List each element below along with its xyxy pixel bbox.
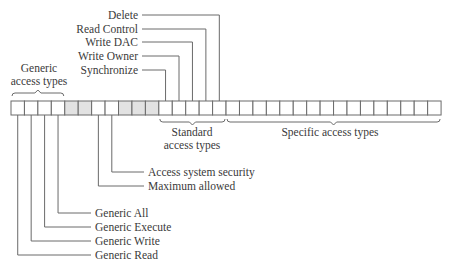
bit-cell (65, 101, 78, 115)
bit-cell (266, 101, 279, 115)
generic-bracket (12, 90, 64, 96)
bit-cell (307, 101, 320, 115)
connector-maximum-allowed (98, 115, 144, 186)
bit-cell (11, 101, 24, 115)
bit-cell (280, 101, 293, 115)
label-maximum-allowed: Maximum allowed (148, 180, 235, 192)
label-generic-read: Generic Read (95, 249, 158, 261)
bit-cell (239, 101, 252, 115)
label-synchronize: Synchronize (81, 64, 138, 77)
standard-bracket (160, 119, 225, 125)
bit-cell (428, 101, 441, 115)
connector-generic-all (58, 115, 91, 213)
label-access-system-security: Access system security (148, 166, 255, 179)
bit-cell (78, 101, 91, 115)
bit-cell (186, 101, 199, 115)
label-write-owner: Write Owner (78, 50, 138, 62)
connector-delete (142, 15, 219, 101)
specific-group-label: Specific access types (281, 126, 379, 139)
standard-group-label-2: access types (164, 139, 221, 152)
generic-group-label-1: Generic (21, 62, 57, 74)
access-mask-diagram: Generic access types Standard access typ… (0, 0, 452, 271)
bit-cell (253, 101, 266, 115)
standard-group-label-1: Standard (172, 126, 213, 138)
label-generic-write: Generic Write (95, 235, 160, 247)
bit-cell (199, 101, 212, 115)
bit-cells (11, 101, 441, 115)
label-generic-execute: Generic Execute (95, 221, 171, 233)
bit-cell (159, 101, 172, 115)
connector-read-control (142, 29, 206, 101)
bit-cell (401, 101, 414, 115)
label-write-dac: Write DAC (85, 36, 138, 48)
connector-generic-read (18, 115, 91, 255)
bit-cell (38, 101, 51, 115)
bit-cell (119, 101, 132, 115)
generic-group-label-2: access types (11, 75, 68, 88)
label-generic-all: Generic All (95, 207, 148, 219)
bit-cell (105, 101, 118, 115)
bit-cell (320, 101, 333, 115)
bit-cell (172, 101, 185, 115)
connector-generic-execute (45, 115, 91, 227)
bit-cell (293, 101, 306, 115)
bit-cell (387, 101, 400, 115)
top-connectors (142, 15, 219, 101)
bit-cell (414, 101, 427, 115)
connector-generic-write (31, 115, 91, 241)
connector-write-dac (142, 42, 192, 101)
bit-cell (226, 101, 239, 115)
bit-cell (213, 101, 226, 115)
bit-cell (334, 101, 347, 115)
bit-cell (347, 101, 360, 115)
bit-cell (374, 101, 387, 115)
connector-synchronize (142, 70, 166, 101)
label-delete: Delete (108, 9, 138, 21)
label-read-control: Read Control (76, 23, 138, 35)
bit-cell (92, 101, 105, 115)
connector-access-system-security (112, 115, 144, 172)
bit-cell (360, 101, 373, 115)
connector-write-owner (142, 56, 179, 101)
bit-cell (24, 101, 37, 115)
bit-cell (51, 101, 64, 115)
bit-cell (132, 101, 145, 115)
bottom-connectors (18, 115, 144, 255)
specific-bracket (227, 119, 440, 125)
bit-cell (145, 101, 158, 115)
